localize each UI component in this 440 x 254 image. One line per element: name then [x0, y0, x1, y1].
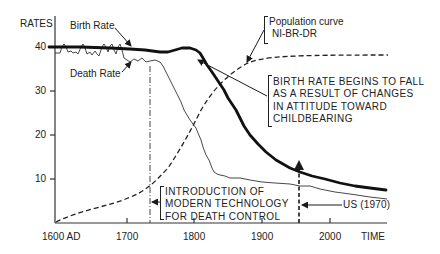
us-1970-arrowhead [294, 160, 304, 170]
population-note-line-2: NI-BR-DR [269, 28, 344, 40]
birth-fall-bracket [268, 75, 272, 127]
x-tick-1900: 1900 [251, 231, 273, 243]
population-bracket [264, 16, 268, 44]
death-control-note: INTRODUCTION OF MODERN TECHNOLOGY FOR DE… [165, 186, 289, 223]
y-tick-20: 20 [35, 129, 46, 141]
birth-rate-pointer [115, 28, 131, 46]
birth-fall-line-4: CHILDBEARING [273, 113, 425, 125]
y-tick-30: 30 [35, 85, 46, 97]
death-control-bracket [160, 186, 164, 220]
birth-fall-pointer [198, 60, 267, 96]
death-control-line-2: MODERN TECHNOLOGY [165, 198, 289, 210]
y-tick-10: 10 [35, 173, 46, 185]
y-axis-label: RATES [20, 18, 53, 30]
death-rate-pointer [122, 62, 131, 72]
birth-fall-line-2: AS A RESULT OF CHANGES [273, 88, 425, 100]
y-tick-40: 40 [35, 41, 46, 53]
birth-fall-note: BIRTH RATE BEGINS TO FALL AS A RESULT OF… [273, 76, 425, 126]
x-tick-1700: 1700 [116, 231, 138, 243]
death-control-line-1: INTRODUCTION OF [165, 186, 289, 198]
x-tick-2000: 2000 [319, 231, 341, 243]
birth-rate-label: Birth Rate [70, 20, 114, 32]
x-tick-1800: 1800 [183, 231, 205, 243]
x-axis-label: TIME [361, 231, 385, 243]
death-control-line-3: FOR DEATH CONTROL [165, 211, 289, 223]
population-pointer [247, 30, 264, 62]
population-note: Population curve NI-BR-DR [269, 16, 344, 41]
x-tick-1600: 1600 AD [42, 231, 80, 243]
population-note-line-1: Population curve [269, 16, 344, 28]
birth-fall-line-1: BIRTH RATE BEGINS TO FALL [273, 76, 425, 88]
death-rate-label: Death Rate [70, 68, 121, 80]
us-1970-label: US (1970) [343, 199, 390, 211]
birth-fall-line-3: IN ATTITUDE TOWARD [273, 101, 425, 113]
